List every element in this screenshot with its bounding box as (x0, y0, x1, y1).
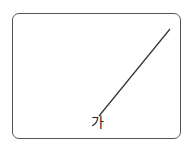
line-segment (99, 29, 170, 116)
line-label: 가 (91, 114, 104, 130)
